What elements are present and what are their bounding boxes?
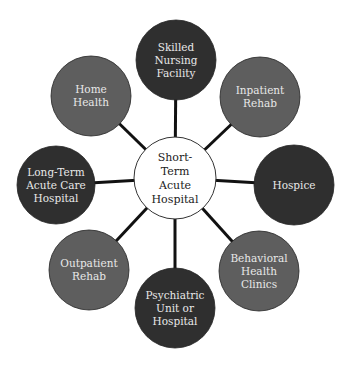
node-label-line: Psychiatric: [146, 289, 205, 301]
node-label-line: Rehab: [243, 97, 277, 109]
node-label-line: Rehab: [72, 270, 106, 282]
node-label-line: Behavioral: [230, 252, 288, 264]
node-label-line: Long-Term: [27, 166, 84, 178]
node-label-line: Skilled: [158, 41, 195, 53]
node-label-line: Unit or: [156, 302, 195, 314]
node-behavioral-health-clinics: BehavioralHealthClinics: [219, 231, 299, 311]
node-label-line: Hospital: [34, 192, 79, 204]
node-label-line: Hospital: [152, 193, 199, 206]
node-home-health: HomeHealth: [51, 56, 131, 136]
node-label-line: Nursing: [154, 54, 197, 66]
node-label-line: Clinics: [241, 278, 277, 290]
node-label-line: Term: [161, 165, 190, 178]
node-hospice: Hospice: [254, 145, 334, 225]
node-label-line: Health: [73, 96, 109, 108]
node-label-line: Short-: [158, 151, 193, 164]
node-label-line: Health: [241, 265, 277, 277]
node-skilled-nursing-facility: SkilledNursingFacility: [136, 20, 216, 100]
node-label-line: Hospital: [153, 315, 198, 327]
node-label-line: Outpatient: [60, 257, 118, 269]
node-outpatient-rehab: OutpatientRehab: [49, 230, 129, 310]
node-label-line: Inpatient: [236, 84, 285, 96]
node-psychiatric-unit-or-hospital: PsychiatricUnit orHospital: [135, 268, 215, 348]
node-label-line: Acute: [158, 179, 191, 192]
hub-and-spoke-diagram: SkilledNursingFacilityInpatientRehabHosp…: [0, 0, 350, 365]
node-inpatient-rehab: InpatientRehab: [220, 57, 300, 137]
node-label-line: Home: [75, 83, 107, 95]
node-label-line: Hospice: [272, 179, 315, 191]
node-label-line: Facility: [157, 67, 196, 79]
node-label-line: Acute Care: [25, 179, 86, 191]
hub-node: Short-TermAcuteHospital: [134, 137, 216, 219]
node-long-term-acute-care-hospital: Long-TermAcute CareHospital: [17, 146, 95, 224]
